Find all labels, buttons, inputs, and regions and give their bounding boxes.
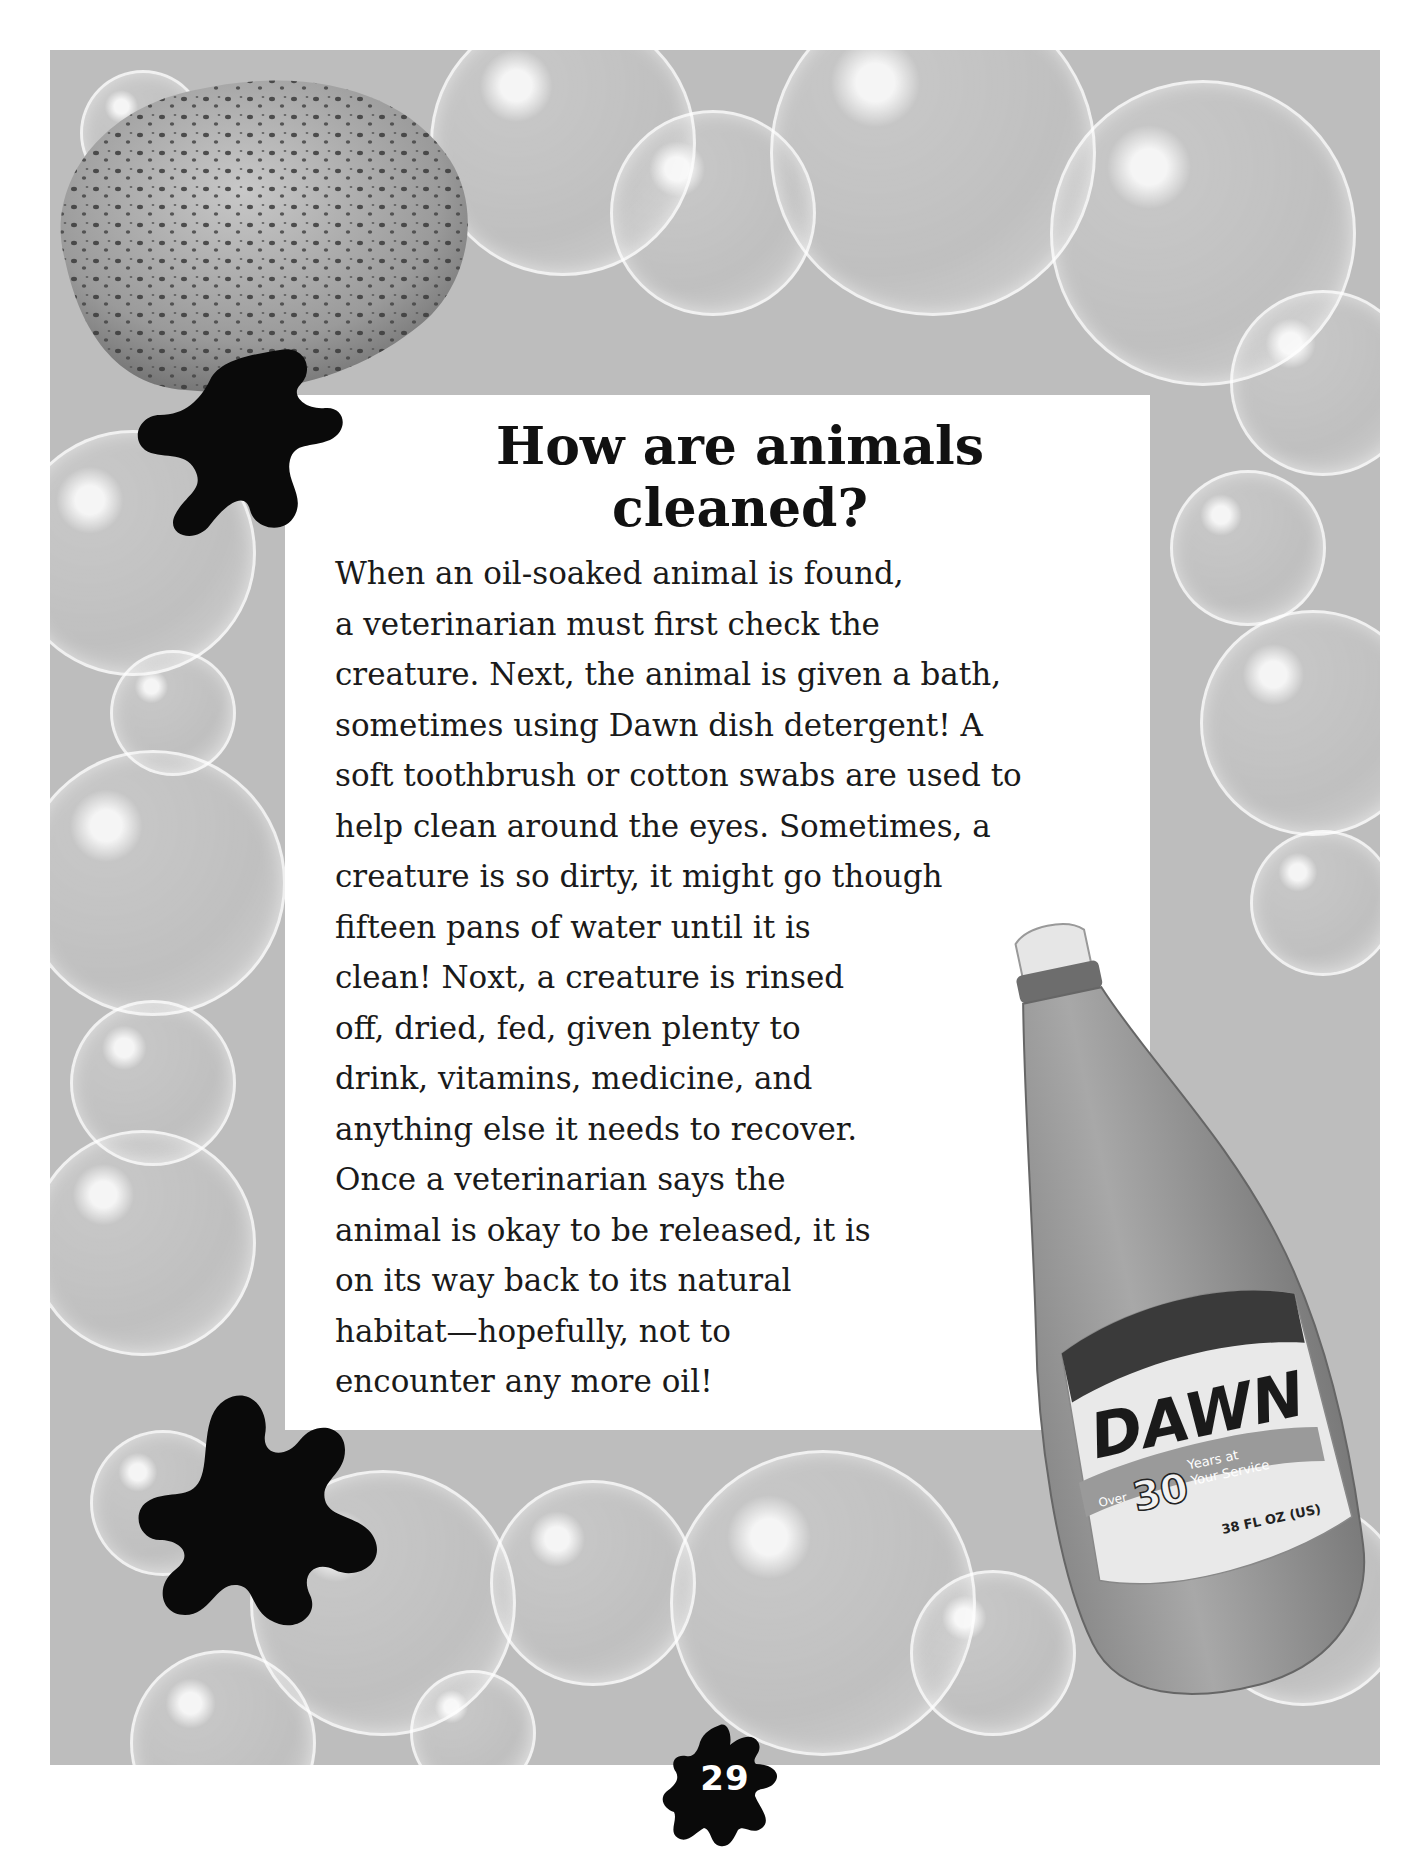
page-title: How are animals cleaned? xyxy=(395,415,1085,539)
body-line: creature. Next, the animal is given a ba… xyxy=(335,649,1165,700)
bubble xyxy=(50,1130,256,1356)
bubble xyxy=(490,1480,696,1686)
body-line: sometimes using Dawn dish detergent! A xyxy=(335,700,1165,751)
bubble xyxy=(1170,470,1326,626)
page-number-badge: 29 xyxy=(660,1720,790,1849)
body-line: help clean around the eyes. Sometimes, a xyxy=(335,801,1165,852)
ink-blot-top-left xyxy=(130,330,350,560)
body-line: soft toothbrush or cotton swabs are used… xyxy=(335,750,1165,801)
bubble xyxy=(1200,610,1380,836)
bubble xyxy=(50,750,286,1016)
body-line: creature is so dirty, it might go though xyxy=(335,851,1165,902)
bubble xyxy=(770,50,1096,316)
body-line: When an oil-soaked animal is found, xyxy=(335,548,1165,599)
dawn-bottle-image: DAWN Over 30 Years at Your Service 38 FL… xyxy=(960,900,1380,1720)
ink-blot-bottom-left xyxy=(130,1380,400,1640)
body-line: a veterinarian must first check the xyxy=(335,599,1165,650)
title-line-1: How are animals xyxy=(496,415,984,476)
page-number: 29 xyxy=(660,1758,790,1798)
title-line-2: cleaned? xyxy=(612,477,868,538)
